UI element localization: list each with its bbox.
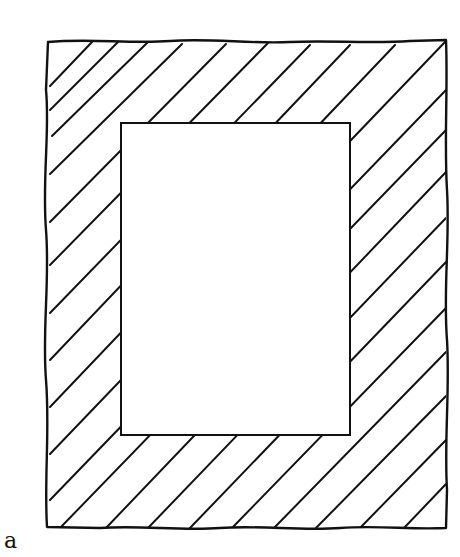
hatched-frame-diagram: a	[0, 0, 460, 557]
figure-label: a	[4, 530, 17, 552]
frame-drawing	[0, 0, 460, 557]
inner-rectangle	[121, 123, 350, 435]
